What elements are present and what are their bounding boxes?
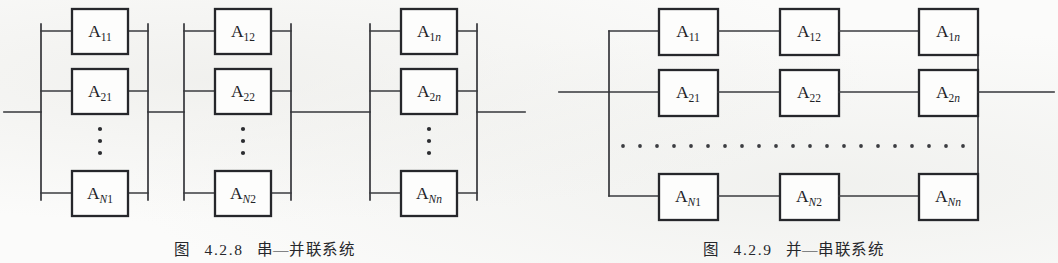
parallel-series-diagram: A11 A12 A1n A21 A22 A2n [529,0,1058,238]
caption-title: 串—并联系统 [257,241,356,258]
series-row-2: A21 A22 A2n [609,70,978,116]
caption-number: 4.2.8 [205,241,244,258]
figure-parallel-series-caption: 图4.2.9并—串联系统 [529,239,1058,263]
parallel-group-1: A11 A21 AN1 [41,9,148,216]
group3-vertical-ellipsis [427,127,431,155]
series-row-1: A11 A12 A1n [609,9,978,55]
caption-number: 4.2.9 [734,241,773,258]
caption-prefix: 图 [703,241,721,258]
group2-vertical-ellipsis [241,127,245,155]
horizontal-dotted-ellipsis [621,144,965,148]
parallel-group-3: A1n A2n ANn [370,9,477,216]
scanned-page-background: A11 A21 AN1 [0,0,1058,263]
parallel-group-2: A12 A22 AN2 [184,9,291,216]
series-parallel-diagram: A11 A21 AN1 [0,0,529,238]
figure-series-parallel: A11 A21 AN1 [0,0,529,263]
series-row-N: AN1 AN2 ANn [609,174,978,220]
caption-prefix: 图 [174,241,192,258]
group1-vertical-ellipsis [98,127,102,155]
figure-parallel-series: A11 A12 A1n A21 A22 A2n [529,0,1058,263]
figure-series-parallel-caption: 图4.2.8串—并联系统 [0,239,529,263]
caption-title: 并—串联系统 [786,241,885,258]
